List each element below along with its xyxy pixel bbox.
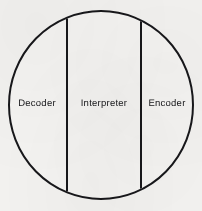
diagram-canvas: Decoder Interpreter Encoder <box>0 0 202 211</box>
region-label-decoder: Decoder <box>18 99 56 109</box>
region-label-interpreter: Interpreter <box>81 99 128 109</box>
region-label-encoder: Encoder <box>148 99 185 109</box>
